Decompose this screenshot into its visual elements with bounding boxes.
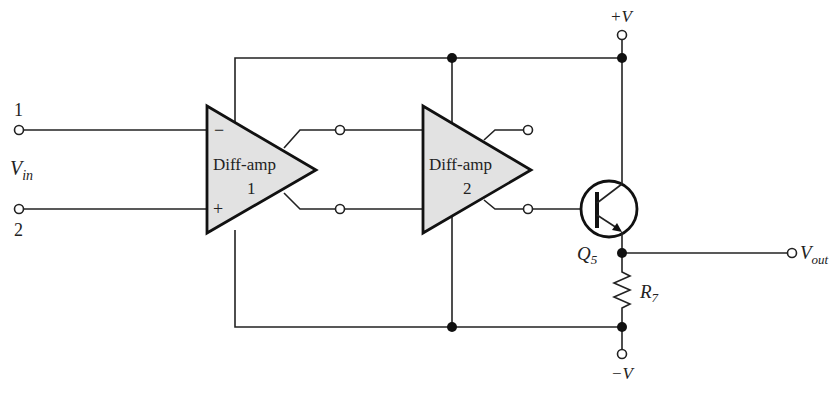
amp1-minus-sign: − [214,120,224,140]
q5-label: Q5 [577,243,598,267]
diff-amp-1: − + Diff-amp 1 [207,106,316,233]
input-label-1: 1 [14,100,23,120]
amp1-output-terminal-top [336,126,345,135]
amp2-label: Diff-amp [429,155,492,174]
r7-label: R7 [639,281,659,305]
input-terminal-1 [15,126,24,135]
input-terminal-2 [15,205,24,214]
amp2-number: 2 [463,179,472,198]
transistor-q5 [581,58,637,253]
circuit-diagram: − + Diff-amp 1 Diff-amp 2 [0,0,840,394]
output-terminal [788,249,797,258]
resistor-r7 [614,253,630,327]
amp2-output-terminal-top [524,126,533,135]
input-label-2: 2 [14,220,23,240]
vin-label: Vin [10,157,33,183]
negative-rail [235,230,622,350]
amp1-number: 1 [247,179,256,198]
positive-supply-terminal [618,31,627,40]
positive-supply-label: +V [610,7,634,26]
amp1-output-terminal-bottom [336,205,345,214]
negative-supply-terminal [618,350,627,359]
terminals [15,31,797,359]
amp1-plus-sign: + [213,199,223,219]
amp2-output-terminal-bottom [524,205,533,214]
vout-label: Vout [800,242,829,267]
amp1-label: Diff-amp [213,155,276,174]
diff-amp-2: Diff-amp 2 [423,106,531,233]
input-wires [23,130,207,209]
negative-supply-label: −V [611,364,635,383]
